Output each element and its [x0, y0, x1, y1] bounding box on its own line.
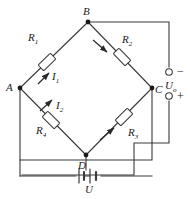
source-label-u: U	[85, 184, 93, 195]
current-label-i1: I1	[52, 71, 59, 85]
output-label-uo-text: U	[165, 79, 173, 91]
node-label-d: D	[78, 160, 86, 171]
resistor-label-r4-sub: 4	[43, 131, 47, 139]
current-arrow-r3-arm	[100, 128, 114, 140]
node-dot-c	[150, 86, 155, 91]
circuit-schematic-canvas	[0, 0, 190, 199]
current-label-i2: I2	[56, 100, 63, 114]
node-label-b: B	[83, 6, 90, 17]
resistor-label-r1-text: R	[28, 31, 35, 43]
current-arrow-i1	[38, 73, 49, 84]
resistor-label-r2: R2	[122, 34, 132, 48]
resistor-label-r2-text: R	[122, 33, 129, 45]
resistor-r3-body	[115, 108, 133, 126]
resistor-label-r4-text: R	[36, 124, 43, 136]
current-arrow-i2	[40, 100, 52, 111]
node-label-c: C	[155, 84, 162, 95]
resistor-label-r4: R4	[36, 125, 46, 139]
circuit-diagram-figure: B A C D R1 R2 R3 R4 I1 I2 U Uo − +	[0, 0, 190, 199]
output-label-uo-sub: o	[173, 86, 177, 94]
current-arrow-r2-arm	[93, 40, 107, 52]
resistor-label-r2-sub: 2	[129, 40, 133, 48]
node-dot-d	[84, 153, 89, 158]
node-dot-a	[18, 86, 23, 91]
resistor-r2-body	[113, 48, 131, 66]
resistor-r1-body	[38, 53, 56, 71]
resistor-label-r3: R3	[128, 127, 138, 141]
node-label-a: A	[6, 82, 13, 93]
current-label-i1-sub: 1	[56, 77, 60, 85]
resistor-label-r3-sub: 3	[135, 133, 139, 141]
terminal-plus-sign: +	[177, 90, 184, 102]
external-wiring	[20, 22, 169, 176]
terminal-minus-sign: −	[177, 65, 184, 77]
resistor-label-r3-text: R	[128, 126, 135, 138]
resistor-bodies	[38, 48, 133, 129]
resistor-label-r1: R1	[28, 32, 38, 46]
battery-icon	[79, 169, 96, 183]
output-label-uo: Uo	[165, 80, 176, 94]
resistor-label-r1-sub: 1	[35, 38, 39, 46]
terminal-minus-icon[interactable]	[166, 69, 173, 76]
node-dot-b	[86, 20, 91, 25]
current-label-i2-sub: 2	[60, 106, 64, 114]
